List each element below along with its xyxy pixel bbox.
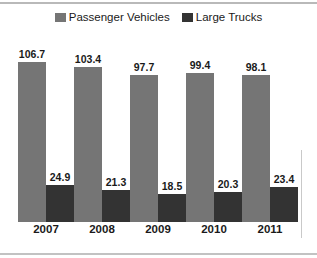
bar-rect <box>214 192 242 222</box>
bar-passenger-vehicles-2011[interactable]: 98.1 <box>242 30 270 222</box>
bar-large-trucks-2009[interactable]: 18.5 <box>158 30 186 222</box>
legend-swatch-icon <box>182 13 193 22</box>
bar-rect <box>46 185 74 222</box>
x-tick-label-2009: 2009 <box>130 224 186 236</box>
x-tick-label-2010: 2010 <box>186 224 242 236</box>
x-tick-label-2011: 2011 <box>242 224 298 236</box>
bar-value-label: 99.4 <box>190 60 210 71</box>
legend-item-large-trucks: Large Trucks <box>182 12 262 24</box>
bar-group-2010: 99.420.3 <box>186 30 242 222</box>
bar-value-label: 20.3 <box>218 179 238 190</box>
bar-rect <box>102 190 130 222</box>
bar-value-label: 23.4 <box>274 174 294 185</box>
bar-chart: Passenger Vehicles Large Trucks 106.724.… <box>0 0 317 258</box>
bar-rect <box>158 194 186 222</box>
bar-group-2008: 103.421.3 <box>74 30 130 222</box>
top-divider <box>0 2 317 4</box>
bottom-divider <box>0 253 317 255</box>
bar-rect <box>270 187 298 222</box>
bar-value-label: 97.7 <box>134 62 154 73</box>
plot-area: 106.724.9103.421.397.718.599.420.398.123… <box>0 30 317 222</box>
legend-label: Passenger Vehicles <box>69 12 170 24</box>
bar-group-2007: 106.724.9 <box>18 30 74 222</box>
bar-value-label: 106.7 <box>19 49 45 60</box>
bar-large-trucks-2007[interactable]: 24.9 <box>46 30 74 222</box>
x-axis-labels: 20072008200920102011 <box>0 224 317 244</box>
legend-item-passenger-vehicles: Passenger Vehicles <box>55 12 170 24</box>
x-tick-label-2008: 2008 <box>74 224 130 236</box>
bar-rect <box>130 75 158 222</box>
bar-value-label: 98.1 <box>246 62 266 73</box>
x-tick-label-2007: 2007 <box>18 224 74 236</box>
bar-value-label: 103.4 <box>75 54 101 65</box>
bar-rect <box>18 62 46 222</box>
bar-group-2011: 98.123.4 <box>242 30 298 222</box>
bar-value-label: 18.5 <box>162 181 182 192</box>
bar-passenger-vehicles-2010[interactable]: 99.4 <box>186 30 214 222</box>
bar-value-label: 21.3 <box>106 177 126 188</box>
bar-rect <box>74 67 102 222</box>
bar-large-trucks-2010[interactable]: 20.3 <box>214 30 242 222</box>
bar-passenger-vehicles-2007[interactable]: 106.7 <box>18 30 46 222</box>
legend-swatch-icon <box>55 13 66 22</box>
bar-rect <box>186 73 214 222</box>
chart-legend: Passenger Vehicles Large Trucks <box>0 12 317 24</box>
bar-passenger-vehicles-2009[interactable]: 97.7 <box>130 30 158 222</box>
bar-value-label: 24.9 <box>50 172 70 183</box>
bar-large-trucks-2011[interactable]: 23.4 <box>270 30 298 222</box>
legend-label: Large Trucks <box>196 12 262 24</box>
bar-group-2009: 97.718.5 <box>130 30 186 222</box>
bar-rect <box>242 75 270 222</box>
bar-passenger-vehicles-2008[interactable]: 103.4 <box>74 30 102 222</box>
bar-large-trucks-2008[interactable]: 21.3 <box>102 30 130 222</box>
